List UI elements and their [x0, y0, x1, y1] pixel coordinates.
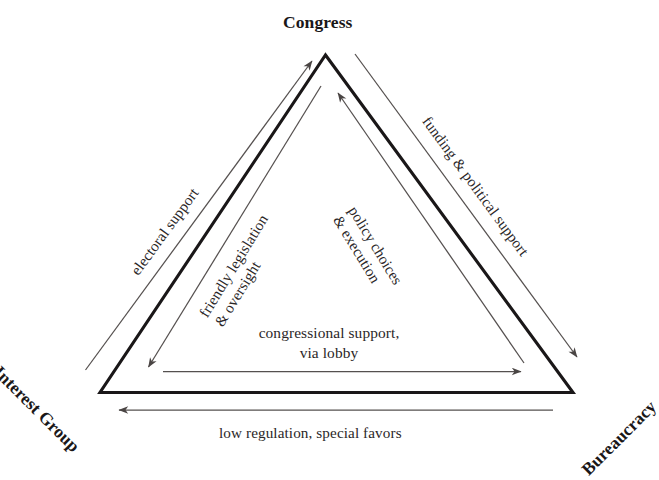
edge-label-congressional-support-line2: via lobby	[229, 343, 429, 363]
edge-label-congressional-support-line1: congressional support,	[229, 323, 429, 343]
arrow-funding-political-support	[355, 54, 577, 357]
edge-label-congressional-support: congressional support, via lobby	[229, 323, 429, 362]
vertex-label-congress: Congress	[283, 12, 353, 33]
edge-label-low-regulation: low regulation, special favors	[219, 424, 402, 442]
